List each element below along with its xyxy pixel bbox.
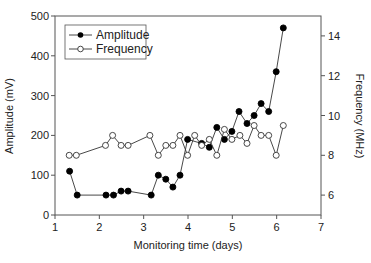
right-y-axis: 68101214 bbox=[321, 30, 340, 201]
open-circle-marker-icon bbox=[244, 140, 250, 146]
right-y-tick-label: 6 bbox=[328, 189, 334, 201]
open-circle-marker-icon bbox=[125, 142, 131, 148]
open-circle-marker-icon bbox=[163, 142, 169, 148]
left-y-tick-label: 500 bbox=[31, 10, 49, 22]
open-circle-marker-icon bbox=[273, 152, 279, 158]
filled-circle-marker-icon bbox=[244, 121, 250, 127]
open-circle-marker-icon bbox=[280, 123, 286, 129]
filled-circle-marker-icon bbox=[111, 192, 117, 198]
right-y-tick-label: 8 bbox=[328, 149, 334, 161]
right-y-axis-title: Frequency (MHz) bbox=[354, 74, 366, 159]
filled-circle-marker-icon bbox=[258, 101, 264, 107]
open-circle-marker-icon bbox=[170, 142, 176, 148]
open-circle-marker-icon bbox=[73, 152, 79, 158]
open-circle-marker-icon bbox=[155, 152, 161, 158]
filled-circle-marker-icon bbox=[206, 144, 212, 150]
filled-circle-marker-icon bbox=[251, 113, 257, 119]
left-y-tick-label: 100 bbox=[31, 169, 49, 181]
filled-circle-marker-icon bbox=[155, 172, 161, 178]
open-circle-marker-icon bbox=[78, 46, 84, 52]
open-circle-marker-icon bbox=[206, 136, 212, 142]
filled-circle-marker-icon bbox=[170, 184, 176, 190]
filled-circle-marker-icon bbox=[74, 192, 80, 198]
filled-circle-marker-icon bbox=[78, 32, 84, 38]
legend-label-frequency: Frequency bbox=[96, 42, 153, 56]
left-y-tick-label: 0 bbox=[43, 209, 49, 221]
left-y-tick-label: 300 bbox=[31, 90, 49, 102]
open-circle-marker-icon bbox=[185, 152, 191, 158]
x-tick-label: 2 bbox=[96, 221, 102, 233]
left-y-axis-title: Amplitude (mV) bbox=[3, 78, 15, 154]
filled-circle-marker-icon bbox=[266, 109, 272, 115]
open-circle-marker-icon bbox=[229, 136, 235, 142]
filled-circle-marker-icon bbox=[280, 25, 286, 31]
open-circle-marker-icon bbox=[251, 123, 257, 129]
open-circle-marker-icon bbox=[266, 132, 272, 138]
open-circle-marker-icon bbox=[237, 132, 243, 138]
x-tick-label: 6 bbox=[274, 221, 280, 233]
open-circle-marker-icon bbox=[221, 126, 227, 132]
filled-circle-marker-icon bbox=[273, 69, 279, 75]
open-circle-marker-icon bbox=[147, 132, 153, 138]
series-frequency bbox=[66, 123, 286, 159]
filled-circle-marker-icon bbox=[103, 192, 109, 198]
open-circle-marker-icon bbox=[118, 142, 124, 148]
open-circle-marker-icon bbox=[199, 142, 205, 148]
open-circle-marker-icon bbox=[110, 132, 116, 138]
left-y-tick-label: 200 bbox=[31, 129, 49, 141]
open-circle-marker-icon bbox=[192, 132, 198, 138]
right-y-tick-label: 14 bbox=[328, 30, 340, 42]
dual-axis-line-chart: 0100200300400500 68101214 1234567 Monito… bbox=[0, 0, 371, 263]
legend: Amplitude Frequency bbox=[65, 25, 153, 59]
legend-label-amplitude: Amplitude bbox=[96, 28, 150, 42]
open-circle-marker-icon bbox=[258, 132, 264, 138]
open-circle-marker-icon bbox=[177, 132, 183, 138]
filled-circle-marker-icon bbox=[125, 188, 131, 194]
filled-circle-marker-icon bbox=[177, 172, 183, 178]
filled-circle-marker-icon bbox=[148, 192, 154, 198]
open-circle-marker-icon bbox=[214, 152, 220, 158]
right-y-tick-label: 12 bbox=[328, 70, 340, 82]
filled-circle-marker-icon bbox=[163, 176, 169, 182]
x-tick-label: 4 bbox=[185, 221, 191, 233]
filled-circle-marker-icon bbox=[118, 188, 124, 194]
filled-circle-marker-icon bbox=[214, 124, 220, 130]
open-circle-marker-icon bbox=[103, 142, 109, 148]
x-axis: 1234567 bbox=[52, 215, 324, 233]
x-tick-label: 5 bbox=[229, 221, 235, 233]
left-y-tick-label: 400 bbox=[31, 50, 49, 62]
x-tick-label: 3 bbox=[141, 221, 147, 233]
filled-circle-marker-icon bbox=[229, 128, 235, 134]
x-tick-label: 7 bbox=[318, 221, 324, 233]
series-line bbox=[69, 126, 283, 156]
x-tick-label: 1 bbox=[52, 221, 58, 233]
filled-circle-marker-icon bbox=[67, 168, 73, 174]
open-circle-marker-icon bbox=[66, 152, 72, 158]
right-y-tick-label: 10 bbox=[328, 110, 340, 122]
left-y-axis: 0100200300400500 bbox=[31, 10, 55, 221]
filled-circle-marker-icon bbox=[236, 109, 242, 115]
x-axis-title: Monitoring time (days) bbox=[134, 239, 243, 251]
filled-circle-marker-icon bbox=[185, 136, 191, 142]
